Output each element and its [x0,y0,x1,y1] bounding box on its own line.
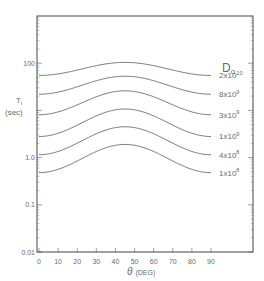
x-tick-label: 60 [150,258,158,265]
series-curve-2 [39,91,211,115]
series-label-1: 8x109 [219,89,239,100]
x-tick-label: 0 [37,258,41,265]
x-axis-title-symbol: θ [127,266,133,277]
curves [39,62,211,172]
y-tick-label: 0.1 [25,201,35,208]
series-label-base: 4x10 [219,151,237,160]
x-tick-label: 90 [207,258,215,265]
legend-title-main: D [222,61,231,75]
legend-title-sub: o [231,67,236,76]
y-tick-label: 1.0 [25,154,35,161]
series-label-exponent: 8 [236,167,239,173]
series-label-5: 1x108 [219,167,239,178]
series-curve-1 [39,76,211,94]
series-curve-3 [39,109,211,136]
curve-labels: 2x10108x1093x1091x1094x1081x108 [219,70,242,178]
series-label-exponent: 9 [236,131,239,137]
series-label-4: 4x108 [219,149,239,160]
y-axis-title-sub: i [21,100,22,106]
minor-ticks [37,18,253,238]
series-label-exponent: 10 [236,70,242,76]
x-axis-title: θ(DEG) [127,266,155,277]
y-axis-title: Ti [16,96,22,106]
x-axis-title-unit: (DEG) [135,269,155,277]
x-tick-label: 40 [112,258,120,265]
series-label-base: 1x10 [219,169,237,178]
y-axis-unit: (sec) [5,108,23,117]
y-tick-label: 100 [23,60,35,67]
x-tick-label: 80 [188,258,196,265]
series-label-3: 1x109 [219,131,239,142]
x-axis-ticks: 0102030405060708090 [37,248,215,265]
legend-title: Do [222,61,236,76]
series-label-base: 8x10 [219,90,237,99]
chart: 0102030405060708090 0.010.11.0100 2x1010… [0,0,264,281]
series-label-2: 3x109 [219,109,239,120]
series-label-base: 1x10 [219,132,237,141]
series-curve-0 [39,62,211,75]
x-tick-label: 70 [169,258,177,265]
x-tick-label: 50 [131,258,139,265]
series-label-exponent: 9 [236,109,239,115]
y-tick-label: 0.01 [21,249,35,256]
x-tick-label: 10 [54,258,62,265]
x-tick-label: 20 [73,258,81,265]
series-label-exponent: 8 [236,149,239,155]
x-tick-label: 30 [92,258,100,265]
series-label-base: 3x10 [219,111,237,120]
series-label-exponent: 9 [236,89,239,95]
